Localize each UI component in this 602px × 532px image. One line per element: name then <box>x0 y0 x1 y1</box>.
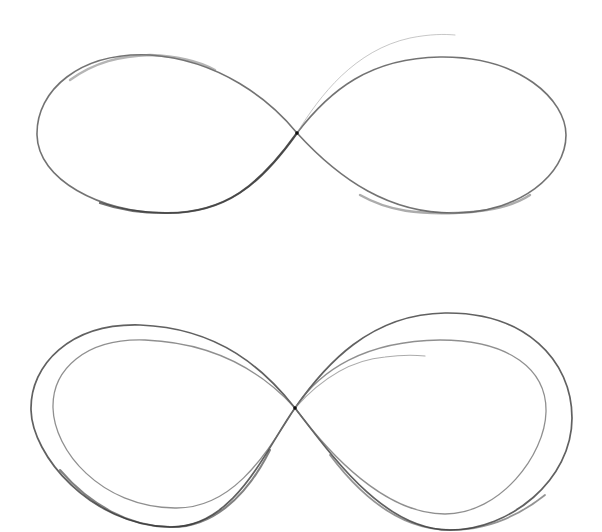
bottom-infinity-shade-right <box>330 455 545 530</box>
crossing-point <box>295 131 299 135</box>
top-infinity-shade-top-left <box>70 55 215 80</box>
drawing-canvas: Pencil sketch of two infinity symbols on… <box>0 0 602 532</box>
top-infinity <box>37 34 566 213</box>
crossing-point <box>293 406 297 410</box>
bottom-infinity-outer-stroke <box>31 313 572 530</box>
bottom-infinity <box>31 313 572 530</box>
bottom-infinity-inner-stroke <box>53 340 546 514</box>
top-infinity-shade-left <box>100 133 297 213</box>
infinity-sketch <box>0 0 602 532</box>
bottom-infinity-shade-left <box>60 450 270 527</box>
top-infinity-main-stroke <box>37 55 566 213</box>
top-infinity-extra-stroke <box>297 34 455 133</box>
